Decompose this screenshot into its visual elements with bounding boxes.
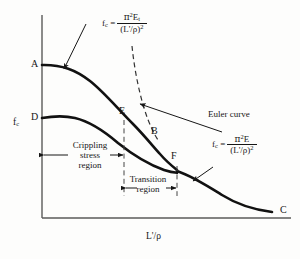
formula-euler-lhs: fc = xyxy=(212,139,225,149)
formula-tangent-modulus: fc = π2Et (L'/ρ)2 xyxy=(102,12,147,34)
crippling-region-line-3: region xyxy=(69,160,111,170)
crippling-region-line-1: Crippling xyxy=(69,140,111,150)
formula-tangent-denominator-power: 2 xyxy=(140,23,143,30)
point-label-F: F xyxy=(171,151,177,162)
crippling-region-line-2: stress xyxy=(69,150,111,160)
x-axis-label: L'/ρ xyxy=(146,232,161,242)
formula-euler-E: E xyxy=(244,134,250,144)
formula-tangent-lhs-subscript: c xyxy=(105,21,108,28)
formula-tangent-lhs: fc = xyxy=(102,18,115,28)
crippling-stress-region-label: Crippling stress region xyxy=(69,140,111,170)
transition-region-label: Transition region xyxy=(127,174,169,194)
formula-euler-denominator-text: (L'/ρ) xyxy=(230,145,250,155)
formula-euler-numerator: π2E xyxy=(232,134,253,144)
y-axis-label: fc xyxy=(13,118,19,128)
euler-curve-annotation: Euler curve xyxy=(208,110,250,119)
formula-euler: fc = π2E (L'/ρ)2 xyxy=(212,134,257,155)
formula-euler-fraction: π2E (L'/ρ)2 xyxy=(227,134,256,155)
euler-curve-tail xyxy=(177,171,272,212)
point-label-E: E xyxy=(119,106,125,117)
formula-tangent-denominator-text: (L'/ρ) xyxy=(120,24,140,34)
formula-euler-denominator: (L'/ρ)2 xyxy=(227,145,256,155)
euler-formula-leader-arrow-tail xyxy=(193,167,213,181)
formula-euler-lhs-subscript: c xyxy=(215,143,218,150)
transition-region-line-2: region xyxy=(127,184,169,194)
point-label-B: B xyxy=(151,126,158,137)
point-label-C: C xyxy=(280,205,287,216)
point-label-D: D xyxy=(31,112,38,123)
formula-tangent-fraction: π2Et (L'/ρ)2 xyxy=(117,12,146,34)
formula-euler-equals: = xyxy=(220,139,225,149)
y-axis-label-subscript: c xyxy=(16,120,19,127)
formula-tangent-E-subscript: t xyxy=(138,15,140,22)
figure-canvas: A D E B F C fc L'/ρ Crippling stress reg… xyxy=(0,0,300,259)
formula-euler-denominator-power: 2 xyxy=(250,144,253,151)
point-label-A: A xyxy=(31,59,38,70)
transition-region-line-1: Transition xyxy=(127,174,169,184)
formula-tangent-equals: = xyxy=(110,18,115,28)
formula-tangent-numerator: π2Et xyxy=(121,12,143,23)
tangent-formula-leader-arrow xyxy=(64,24,86,69)
diagram-vector-layer xyxy=(0,0,300,259)
formula-tangent-denominator: (L'/ρ)2 xyxy=(117,24,146,34)
